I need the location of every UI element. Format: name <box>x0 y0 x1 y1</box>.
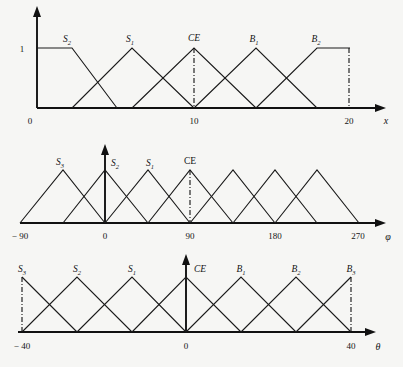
label-theta-b3: B3 <box>346 264 356 276</box>
label-theta-s3: S3 <box>18 264 27 276</box>
chart-x-xtick-0: 0 <box>28 116 33 126</box>
chart-phi-xtick-neg90: − 90 <box>12 231 29 241</box>
chart-x-axis-label: x <box>383 115 389 126</box>
label-phi-ce: CE <box>184 156 196 166</box>
chart-x-xtick-10: 10 <box>190 116 200 126</box>
chart-x-x-arrow <box>375 104 386 112</box>
chart-theta-axis-label: θ <box>376 341 381 352</box>
chart-theta: − 40 0 40 θ S3 S2 S1 CE B1 B2 B3 <box>14 254 381 352</box>
chart-theta-xtick-40: 40 <box>347 341 357 351</box>
chart-x: 1 0 10 20 x S2 S1 CE B1 B2 <box>20 6 389 126</box>
membership-function-figure: 1 0 10 20 x S2 S1 CE B1 B2 − 90 0 90 180… <box>0 0 403 367</box>
chart-phi: − 90 0 90 180 270 φ S3 S2 S1 CE <box>12 144 391 242</box>
label-phi-s1: S1 <box>146 158 154 170</box>
label-s1: S1 <box>126 34 134 46</box>
label-theta-b1: B1 <box>236 264 245 276</box>
chart-phi-axis-label: φ <box>385 231 391 242</box>
chart-phi-xtick-270: 270 <box>351 231 365 241</box>
chart-theta-y-arrow <box>182 254 190 265</box>
chart-phi-x-arrow <box>375 219 386 227</box>
mf-theta-s2 <box>22 277 132 332</box>
mf-s2 <box>37 48 117 108</box>
label-theta-s1: S1 <box>128 264 136 276</box>
mf-theta-b2 <box>241 277 351 332</box>
mf-b1 <box>194 48 317 108</box>
chart-x-ytick-1: 1 <box>20 44 25 54</box>
label-theta-ce: CE <box>194 264 206 274</box>
chart-phi-xtick-90: 90 <box>186 231 196 241</box>
label-s2: S2 <box>63 34 72 46</box>
label-b1: B1 <box>249 34 258 46</box>
label-theta-s2: S2 <box>73 264 82 276</box>
mf-phi-s3 <box>20 170 105 223</box>
mf-theta-b1 <box>186 277 296 332</box>
mf-b2 <box>256 48 350 108</box>
label-ce: CE <box>188 33 200 43</box>
chart-x-xtick-20: 20 <box>345 116 355 126</box>
chart-phi-xtick-0: 0 <box>103 231 108 241</box>
mf-phi-s1 <box>105 170 190 223</box>
mf-theta-s1 <box>77 277 186 332</box>
chart-theta-x-arrow <box>365 328 376 336</box>
chart-theta-xtick-0: 0 <box>184 341 189 351</box>
label-theta-b2: B2 <box>291 264 301 276</box>
mf-phi-t6 <box>233 170 317 223</box>
label-phi-s3: S3 <box>56 157 65 169</box>
chart-phi-y-arrow <box>101 144 109 155</box>
mf-phi-t5 <box>190 170 275 223</box>
chart-x-y-arrow <box>33 6 41 17</box>
label-b2: B2 <box>311 34 321 46</box>
label-phi-s2: S2 <box>111 158 120 170</box>
chart-phi-xtick-180: 180 <box>268 231 282 241</box>
mf-phi-t7 <box>275 170 359 223</box>
mf-s1 <box>72 48 194 108</box>
chart-theta-xtick-neg40: − 40 <box>14 341 31 351</box>
